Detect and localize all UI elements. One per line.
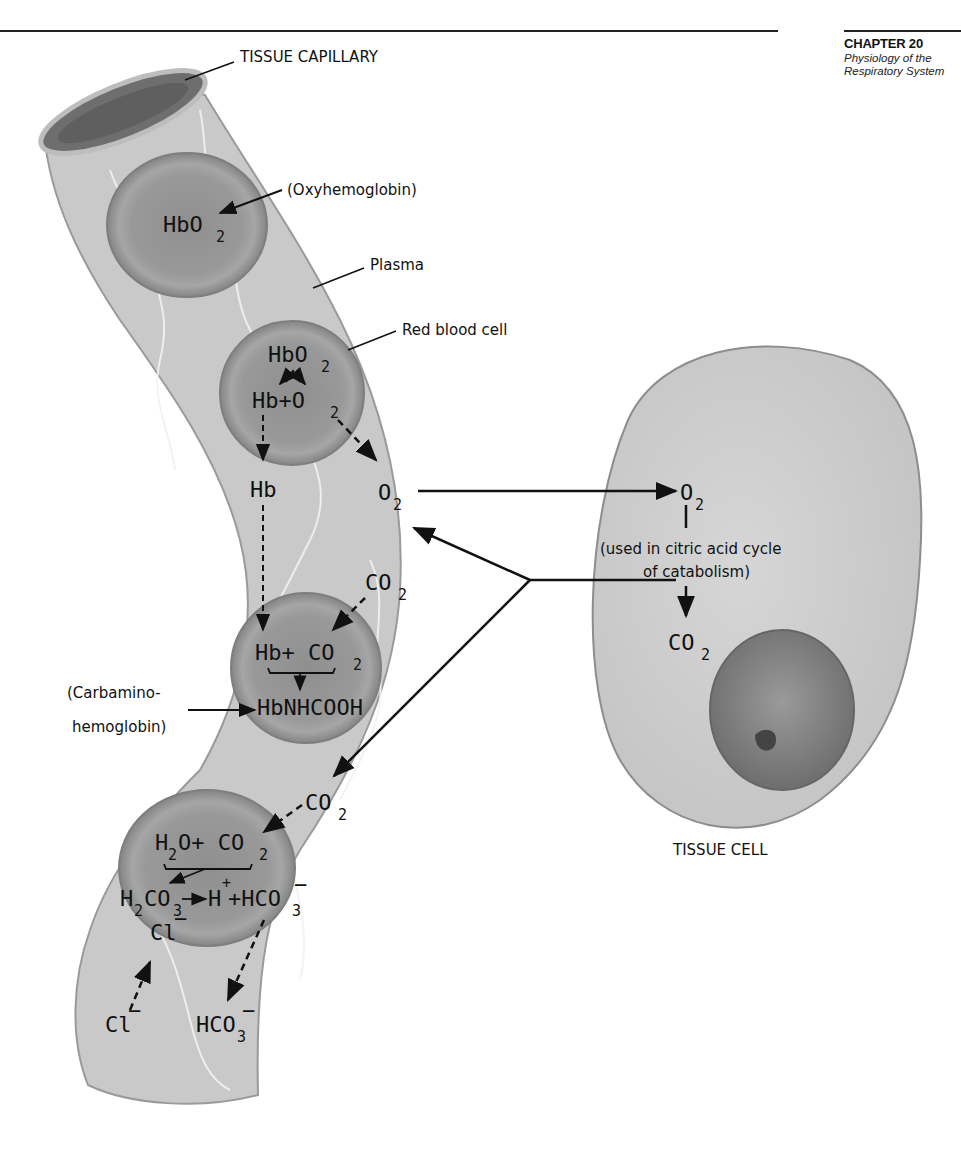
svg-text:CO: CO: [668, 630, 695, 655]
svg-text:CO: CO: [144, 886, 171, 911]
svg-text:HbO: HbO: [163, 212, 203, 237]
svg-text:Cl: Cl: [150, 920, 177, 945]
capillary-gas-exchange-diagram: TISSUE CAPILLARY (Oxyhemoglobin) Plasma …: [0, 0, 961, 1157]
svg-text:2: 2: [321, 358, 330, 376]
svg-text:Hb+ CO: Hb+ CO: [255, 640, 334, 665]
label-oxyhemoglobin: (Oxyhemoglobin): [287, 181, 417, 199]
svg-text:O+ CO: O+ CO: [178, 830, 244, 855]
svg-text:−: −: [294, 872, 307, 897]
svg-text:HbO: HbO: [268, 342, 308, 367]
svg-text:3: 3: [292, 902, 301, 920]
svg-text:3: 3: [237, 1028, 246, 1046]
svg-text:2: 2: [134, 902, 143, 920]
svg-text:2: 2: [393, 496, 402, 514]
nucleus: [710, 630, 854, 790]
svg-text:+HCO: +HCO: [228, 886, 281, 911]
svg-text:CO: CO: [365, 570, 392, 595]
svg-text:H: H: [120, 886, 133, 911]
formula-carbaminohemoglobin: HbNHCOOH: [257, 695, 363, 720]
label-red-blood-cell: Red blood cell: [402, 321, 507, 339]
label-citric-line2: of catabolism): [643, 563, 750, 581]
svg-text:O: O: [378, 480, 391, 505]
svg-text:2: 2: [168, 846, 177, 864]
svg-text:−: −: [174, 906, 187, 931]
label-tissue-capillary: TISSUE CAPILLARY: [239, 48, 379, 66]
svg-text:CO: CO: [305, 790, 332, 815]
label-plasma: Plasma: [370, 256, 424, 274]
svg-text:−: −: [128, 998, 141, 1023]
svg-text:2: 2: [338, 806, 347, 824]
svg-text:H: H: [155, 830, 168, 855]
label-tissue-cell: TISSUE CELL: [672, 841, 768, 859]
svg-text:2: 2: [701, 646, 710, 664]
svg-text:2: 2: [695, 496, 704, 514]
svg-text:H: H: [208, 886, 221, 911]
formula-hb: Hb: [250, 477, 277, 502]
svg-text:2: 2: [398, 586, 407, 604]
label-citric-line1: (used in citric acid cycle: [600, 540, 781, 558]
svg-text:2: 2: [330, 404, 339, 422]
label-carbamino-line2: hemoglobin): [72, 718, 166, 736]
svg-text:2: 2: [259, 846, 268, 864]
svg-text:2: 2: [353, 656, 362, 674]
label-carbamino-line1: (Carbamino-: [67, 684, 161, 702]
svg-text:−: −: [242, 998, 255, 1023]
svg-text:2: 2: [216, 228, 225, 246]
svg-text:HCO: HCO: [196, 1012, 236, 1037]
svg-text:O: O: [680, 480, 693, 505]
svg-text:Hb+O: Hb+O: [252, 388, 305, 413]
red-blood-cell-4: [119, 790, 295, 946]
